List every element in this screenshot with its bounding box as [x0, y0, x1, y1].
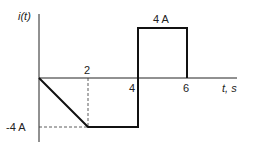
- neg-level-label: -4 A: [6, 121, 26, 133]
- pos-level-label: 4 A: [153, 13, 170, 25]
- x-axis-label: t, s: [222, 82, 237, 94]
- current-waveform-chart: i(t) t, s 2 4 6 -4 A 4 A: [0, 0, 254, 149]
- tick-4: 4: [129, 82, 135, 94]
- tick-2: 2: [84, 64, 90, 76]
- y-axis-label: i(t): [18, 10, 31, 22]
- tick-6: 6: [183, 82, 189, 94]
